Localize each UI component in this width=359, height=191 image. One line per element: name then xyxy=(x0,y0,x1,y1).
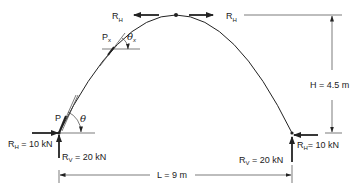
arch-curve xyxy=(59,15,292,133)
right-rh-label: RH= 10 kN xyxy=(297,140,339,151)
crown-rh-right-label: RH xyxy=(226,11,237,23)
crown-rh-left-label: RH xyxy=(112,11,123,23)
arch-diagram: RH RH H = 4.5 m Px θx P θ RH = 10 kN RV … xyxy=(0,0,359,191)
left-rh-label: RH = 10 kN xyxy=(8,139,53,150)
px-segment xyxy=(108,47,114,55)
px-label: Px xyxy=(102,32,111,43)
theta-label: θ xyxy=(80,113,86,124)
left-rv-label: RV = 20 kN xyxy=(62,152,106,163)
p-label: P xyxy=(55,113,61,123)
span-label: L = 9 m xyxy=(157,170,187,180)
theta-x-label: θx xyxy=(127,31,137,43)
arch-svg: RH RH H = 4.5 m Px θx P θ RH = 10 kN RV … xyxy=(0,0,359,191)
height-label: H = 4.5 m xyxy=(310,80,349,90)
right-rv-label: RV = 20 kN xyxy=(239,155,283,166)
right-support-point xyxy=(290,131,293,134)
crown-hinge xyxy=(174,13,178,17)
